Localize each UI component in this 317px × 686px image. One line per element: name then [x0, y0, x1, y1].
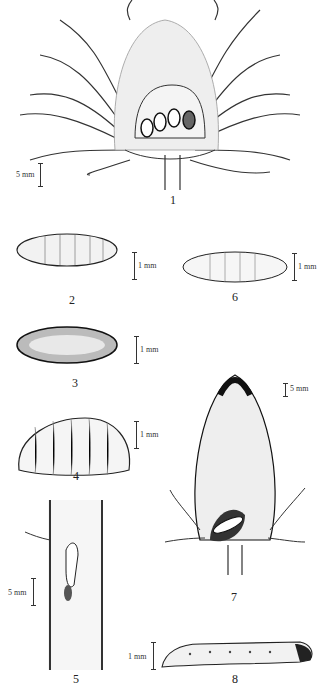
figure-3-puparium [15, 326, 120, 366]
figure-8-caterpillar [160, 632, 315, 672]
scale-bar-8 [153, 642, 157, 670]
figure-number-1: 1 [163, 193, 183, 208]
figure-number-4: 4 [66, 469, 86, 484]
figure-2-puparium [15, 233, 120, 268]
flower-head-illustration [0, 0, 317, 210]
scale-label-8: 1 mm [128, 652, 146, 661]
scale-label-1: 5 mm [16, 170, 34, 179]
figure-6-larva [180, 250, 290, 285]
figure-number-6: 6 [225, 290, 245, 305]
figure-1 [0, 0, 317, 210]
scale-bar-1 [40, 163, 44, 187]
scale-label-6: 1 mm [298, 262, 316, 271]
figure-number-5: 5 [66, 672, 86, 686]
figure-7-flower-bud [170, 360, 310, 590]
scale-bar-7 [285, 383, 289, 397]
scale-bar-5 [33, 578, 37, 606]
scale-label-3: 1 mm [140, 345, 158, 354]
figure-number-3: 3 [65, 376, 85, 391]
scale-label-7: 5 mm [290, 384, 308, 393]
scale-label-4: 1 mm [140, 430, 158, 439]
figure-number-8: 8 [225, 672, 245, 686]
figure-5-stem [40, 500, 120, 670]
scale-label-2: 1 mm [138, 261, 156, 270]
figure-number-7: 7 [224, 590, 244, 605]
scale-label-5: 5 mm [8, 588, 26, 597]
figure-number-2: 2 [62, 293, 82, 308]
